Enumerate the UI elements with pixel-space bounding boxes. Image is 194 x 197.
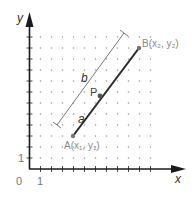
origin-label: 0 — [16, 175, 22, 187]
coordinate-diagram: y x 0 1 1 B(x₂, y₂) A(x₁, y₁) P a b — [0, 0, 194, 197]
y-axis-label: y — [16, 11, 24, 25]
point-P — [98, 94, 103, 99]
point-A — [71, 134, 75, 138]
segment-a-label: a — [78, 112, 85, 126]
point-A-label: A(x₁, y₁) — [64, 140, 100, 151]
point-B-label: B(x₂, y₂) — [142, 38, 179, 49]
x-unit-label: 1 — [37, 175, 43, 187]
measure-tick-end — [120, 30, 128, 36]
point-B — [137, 46, 141, 50]
y-unit-label: 1 — [18, 152, 24, 164]
x-axis-label: x — [174, 172, 182, 186]
measure-tick-start — [53, 122, 61, 128]
segment-b-label: b — [81, 71, 88, 85]
point-P-label: P — [90, 86, 97, 98]
y-axis-arrow-icon — [26, 12, 34, 27]
